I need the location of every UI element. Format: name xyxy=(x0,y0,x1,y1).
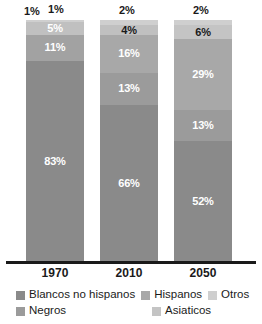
stack-2050: 6% 29% 13% 52% xyxy=(174,20,232,262)
legend-label-blancos: Blancos no hispanos xyxy=(29,289,135,301)
outside-label-2010-otros: 2% xyxy=(119,5,135,16)
segment-label-2050-negros: 13% xyxy=(192,120,213,131)
legend: Blancos no hispanos Hispanos Otros Negro… xyxy=(0,287,262,323)
x-tick-label-2010: 2010 xyxy=(100,266,158,280)
segment-label-2050-asiaticos: 6% xyxy=(195,27,211,38)
legend-item-negros[interactable]: Negros xyxy=(16,305,66,317)
legend-swatch-icon-negros xyxy=(16,307,25,316)
segment-label-2050-hispanos: 29% xyxy=(192,69,213,80)
segment-2050-hispanos[interactable]: 29% xyxy=(174,39,232,109)
segment-1970-hispanos[interactable]: 11% xyxy=(26,35,84,62)
x-tick-label-2050: 2050 xyxy=(174,266,232,280)
legend-row-1: Blancos no hispanos Hispanos Otros xyxy=(0,287,262,303)
legend-swatch-icon-otros xyxy=(208,291,217,300)
plot-area: 1% 1% 5% 11% 83% 2% 4% xyxy=(0,0,262,262)
stack-2010: 4% 16% 13% 66% xyxy=(100,20,158,262)
legend-swatch-icon-hispanos xyxy=(141,291,150,300)
bar-group-1970[interactable]: 1% 1% 5% 11% 83% xyxy=(26,20,84,262)
legend-item-asiaticos[interactable]: Asiaticos xyxy=(152,305,211,317)
x-tick-label-1970: 1970 xyxy=(26,266,84,280)
segment-label-1970-hispanos: 11% xyxy=(45,42,66,53)
segment-label-1970-asiaticos: 5% xyxy=(47,23,63,34)
bar-group-2010[interactable]: 2% 4% 16% 13% 66% xyxy=(100,20,158,262)
legend-item-blancos-no-hispanos[interactable]: Blancos no hispanos xyxy=(16,289,135,301)
legend-row-2: Negros Asiaticos xyxy=(0,303,262,319)
stacked-bar-chart: 1% 1% 5% 11% 83% 2% 4% xyxy=(0,0,262,324)
stack-1970: 5% 11% 83% xyxy=(26,20,84,262)
legend-label-hispanos: Hispanos xyxy=(154,289,202,301)
segment-label-2050-blancos: 52% xyxy=(192,196,213,207)
outside-label-1970-otros: 1% xyxy=(48,4,64,15)
legend-item-hispanos[interactable]: Hispanos xyxy=(141,289,202,301)
legend-swatch-icon-blancos xyxy=(16,291,25,300)
segment-2010-blancos[interactable]: 66% xyxy=(100,105,158,262)
x-axis-line xyxy=(6,261,256,264)
segment-2050-blancos[interactable]: 52% xyxy=(174,141,232,262)
outside-label-1970-asiaticos: 1% xyxy=(24,6,40,17)
segment-label-2010-negros: 13% xyxy=(118,83,139,94)
segment-2050-negros[interactable]: 13% xyxy=(174,110,232,142)
bar-group-2050[interactable]: 2% 6% 29% 13% 52% xyxy=(174,20,232,262)
legend-swatch-icon-asiaticos xyxy=(152,307,161,316)
x-axis-tick-labels: 1970 2010 2050 xyxy=(0,266,262,284)
segment-1970-blancos[interactable]: 83% xyxy=(26,61,84,262)
segment-2010-negros[interactable]: 13% xyxy=(100,73,158,105)
segment-1970-asiaticos[interactable]: 5% xyxy=(26,22,84,34)
segment-2010-hispanos[interactable]: 16% xyxy=(100,35,158,74)
segment-2010-asiaticos[interactable]: 4% xyxy=(100,25,158,35)
outside-label-2050-otros: 2% xyxy=(193,5,209,16)
segment-label-2010-blancos: 66% xyxy=(118,178,139,189)
legend-label-otros: Otros xyxy=(221,289,249,301)
segment-label-2010-hispanos: 16% xyxy=(118,48,139,59)
segment-label-1970-blancos: 83% xyxy=(44,156,65,167)
legend-label-asiaticos: Asiaticos xyxy=(165,305,211,317)
segment-2050-asiaticos[interactable]: 6% xyxy=(174,25,232,40)
legend-item-otros[interactable]: Otros xyxy=(208,289,249,301)
legend-label-negros: Negros xyxy=(29,305,66,317)
